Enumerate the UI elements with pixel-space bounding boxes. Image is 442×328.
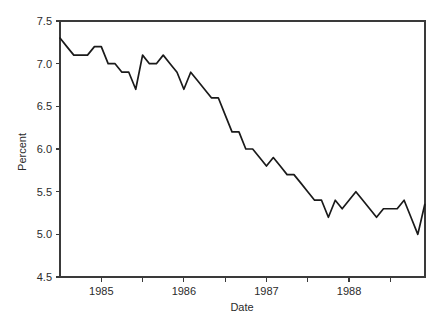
line-chart: 4.55.05.56.06.57.07.5 1985198619871988 P…	[0, 0, 442, 328]
x-tick-label: 1987	[254, 285, 278, 297]
x-tick-label: 1985	[89, 285, 113, 297]
y-tick-label: 7.5	[37, 15, 52, 27]
y-axis-title: Percent	[16, 133, 28, 171]
chart-container: 4.55.05.56.06.57.07.5 1985198619871988 P…	[0, 0, 442, 328]
y-tick-label: 6.0	[37, 143, 52, 155]
y-tick-label: 7.0	[37, 58, 52, 70]
y-tick-label: 5.5	[37, 186, 52, 198]
y-tick-label: 6.5	[37, 100, 52, 112]
x-axis-title: Date	[230, 301, 253, 313]
y-tick-label: 4.5	[37, 271, 52, 283]
x-tick-label: 1986	[172, 285, 196, 297]
chart-background	[0, 0, 442, 328]
y-tick-label: 5.0	[37, 228, 52, 240]
x-tick-label: 1988	[337, 285, 361, 297]
